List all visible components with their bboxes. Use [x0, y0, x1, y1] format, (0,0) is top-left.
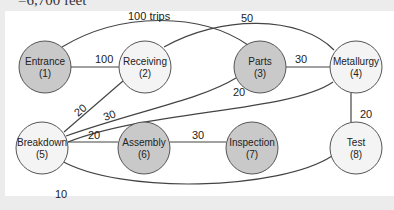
node-number: (1): [39, 68, 51, 79]
node-assembly: Assembly(6): [118, 122, 170, 174]
node-circle: [234, 41, 286, 93]
edge-labels: 100 trips100503020302020302010: [55, 10, 372, 200]
node-inspection: Inspection(7): [226, 122, 278, 174]
nodes: Entrance(1)Receiving(2)Parts(3)Metallurg…: [16, 41, 382, 174]
node-test: Test(8): [330, 122, 382, 174]
node-entrance: Entrance(1): [19, 41, 71, 93]
node-name: Assembly: [122, 137, 165, 148]
edge-label: 30: [192, 129, 204, 141]
node-name: Entrance: [25, 56, 65, 67]
edge-label: 20: [233, 86, 245, 98]
node-circle: [226, 122, 278, 174]
node-number: (2): [139, 68, 151, 79]
edges: [60, 20, 351, 183]
node-number: (8): [350, 149, 362, 160]
node-number: (5): [36, 149, 48, 160]
node-name: Metallurgy: [333, 56, 379, 67]
node-name: Parts: [248, 56, 271, 67]
edge-label: 100 trips: [128, 10, 171, 22]
node-circle: [19, 41, 71, 93]
node-metallurgy: Metallurgy(4): [330, 41, 382, 93]
edge-5-8: [60, 156, 332, 184]
node-number: (4): [350, 68, 362, 79]
node-number: (6): [138, 149, 150, 160]
flow-diagram: 100 trips100503020302020302010 Entrance(…: [0, 0, 394, 210]
node-circle: [330, 122, 382, 174]
node-name: Test: [347, 137, 366, 148]
node-parts: Parts(3): [234, 41, 286, 93]
node-name: Receiving: [123, 56, 167, 67]
edge-label: 20: [72, 101, 89, 118]
node-circle: [119, 41, 171, 93]
node-number: (3): [254, 68, 266, 79]
node-circle: [330, 41, 382, 93]
node-circle: [16, 122, 68, 174]
node-number: (7): [246, 149, 258, 160]
edge-label: 20: [88, 129, 100, 141]
node-name: Breakdown: [17, 137, 67, 148]
node-circle: [118, 122, 170, 174]
edge-label: 30: [295, 53, 307, 65]
node-name: Inspection: [229, 137, 275, 148]
node-receiving: Receiving(2): [119, 41, 171, 93]
edge-label: 10: [55, 188, 67, 200]
edge-2-5: [64, 81, 123, 132]
edge-label: 100: [95, 53, 113, 65]
node-breakdown: Breakdown(5): [16, 122, 68, 174]
edge-label: 50: [241, 12, 253, 24]
edge-label: 20: [360, 108, 372, 120]
